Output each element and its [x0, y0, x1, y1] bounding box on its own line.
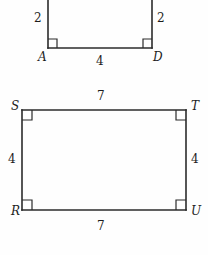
figure-canvas: [0, 0, 208, 255]
right-angle-mark-R: [22, 200, 32, 210]
right-angle-mark-T: [176, 110, 186, 120]
right-angle-mark-U: [176, 200, 186, 210]
right-angle-mark-D: [143, 39, 152, 48]
rect-bottom-measure: 7: [97, 220, 105, 232]
top-figure-right-measure: 2: [157, 12, 165, 24]
top-figure-left-measure: 2: [34, 12, 42, 24]
rectangle-STUR-shape: [22, 110, 186, 210]
right-angle-mark-A: [48, 39, 57, 48]
rect-top-measure: 7: [97, 90, 105, 102]
vertex-label-u: U: [191, 205, 201, 217]
vertex-label-r: R: [11, 205, 20, 217]
vertex-label-s: S: [11, 100, 19, 112]
rect-left-measure: 4: [8, 153, 16, 165]
vertex-label-t: T: [191, 100, 199, 112]
top-figure-bottom-measure: 4: [96, 55, 104, 67]
top-figure-shape: [48, 0, 152, 48]
vertex-label-d: D: [153, 51, 163, 63]
right-angle-mark-S: [22, 110, 32, 120]
rect-right-measure: 4: [191, 153, 199, 165]
vertex-label-a: A: [38, 51, 47, 63]
geometry-diagram: 2 2 4 A D 7 7 4 4 S T U R: [0, 0, 208, 255]
